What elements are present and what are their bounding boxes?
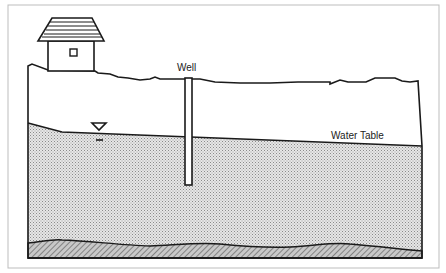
well-casing — [185, 78, 192, 185]
water-table-label: Water Table — [331, 130, 384, 141]
groundwater-diagram: Well Water Table — [0, 0, 446, 273]
well-label: Well — [177, 62, 196, 73]
house-window — [70, 49, 77, 56]
house — [38, 18, 104, 71]
